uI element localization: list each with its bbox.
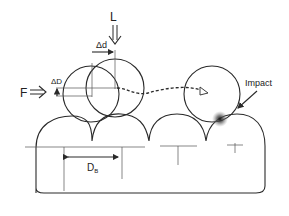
impact-label: Impact xyxy=(245,78,273,88)
delta-d-label: Δd xyxy=(96,40,107,50)
force-label: F xyxy=(20,86,27,100)
diameter-label: DB xyxy=(87,162,98,174)
impact-arrow xyxy=(238,91,257,108)
load-arrow-icon xyxy=(109,25,121,44)
impact-spark xyxy=(212,111,228,127)
ball-impact-diagram: DB Δd ΔD L F Impact xyxy=(0,0,289,216)
trajectory-arrowhead-icon xyxy=(200,87,208,95)
ball-initial xyxy=(63,66,119,122)
trajectory-path xyxy=(117,87,205,93)
base-body xyxy=(36,114,265,193)
load-label: L xyxy=(110,10,117,24)
ball-impact xyxy=(184,66,240,122)
force-arrow-icon xyxy=(30,86,46,98)
delta-D-label: ΔD xyxy=(51,77,62,86)
